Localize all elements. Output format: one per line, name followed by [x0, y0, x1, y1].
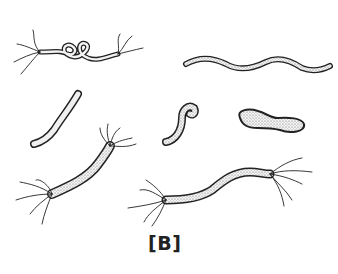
s-shaped-flagellated-bacterium	[128, 158, 312, 226]
flagellated-rod-bacterium	[16, 124, 136, 224]
curved-rod-bacterium	[34, 94, 78, 144]
coiled-bacterium	[14, 30, 143, 74]
dumbbell-bacterium	[239, 110, 304, 132]
figure-label: [B]	[148, 232, 181, 254]
spiral-bacterium	[186, 59, 330, 70]
hooked-bacterium	[166, 107, 195, 142]
